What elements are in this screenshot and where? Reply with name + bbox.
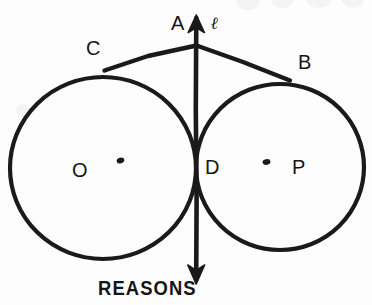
label-point-c: C bbox=[86, 38, 101, 58]
label-center-p: P bbox=[292, 157, 306, 177]
segment-ac bbox=[105, 46, 197, 71]
figure-caption: REASONS bbox=[98, 278, 197, 298]
circle-p bbox=[196, 84, 364, 250]
vertical-line-l bbox=[196, 18, 197, 280]
diagram-canvas bbox=[0, 0, 372, 305]
label-center-o: O bbox=[72, 160, 88, 180]
center-dot-p bbox=[262, 158, 271, 165]
segment-ab bbox=[197, 46, 291, 81]
label-line-l: ℓ bbox=[211, 15, 218, 32]
label-point-a: A bbox=[171, 13, 185, 33]
label-point-b: B bbox=[298, 52, 312, 72]
circle-o bbox=[10, 77, 196, 259]
center-dot-o bbox=[116, 157, 125, 165]
geometry-figure: A ℓ C B O D P REASONS bbox=[0, 0, 372, 305]
label-point-d: D bbox=[205, 157, 220, 177]
